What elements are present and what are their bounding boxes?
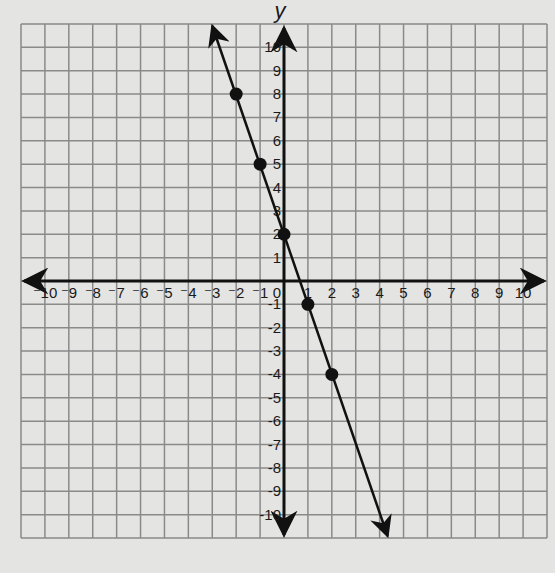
- y-tick-label: -9: [268, 482, 281, 499]
- axes: [24, 28, 544, 535]
- y-tick-label: 6: [273, 132, 281, 149]
- x-tick-label: ⁻4: [180, 284, 196, 301]
- x-tick-label: ⁻8: [85, 284, 101, 301]
- x-tick-label: 7: [447, 284, 455, 301]
- y-tick-label: -5: [268, 389, 281, 406]
- x-tick-label: ⁻9: [61, 284, 77, 301]
- y-tick-label: 4: [273, 179, 281, 196]
- x-tick-label: 6: [423, 284, 431, 301]
- data-point: [278, 228, 291, 241]
- x-tick-label: ⁻1: [252, 284, 268, 301]
- x-tick-label: 2: [328, 284, 336, 301]
- x-tick-label: ⁻6: [132, 284, 148, 301]
- data-point: [301, 298, 314, 311]
- x-tick-label: ⁻10: [33, 284, 58, 301]
- y-tick-label: -2: [268, 319, 281, 336]
- y-tick-label: -7: [268, 436, 281, 453]
- y-tick-label: -8: [268, 459, 281, 476]
- origin-label: 0: [273, 284, 281, 301]
- y-axis-label: y: [273, 0, 288, 23]
- data-point: [254, 158, 267, 171]
- x-tick-label: 8: [471, 284, 479, 301]
- x-tick-label: ⁻7: [108, 284, 124, 301]
- coordinate-plane: ⁻10⁻9⁻8⁻7⁻6⁻5⁻4⁻3⁻2⁻112345678910-10-9-8-…: [0, 0, 555, 573]
- y-tick-label: 9: [273, 62, 281, 79]
- x-tick-label: 10: [515, 284, 532, 301]
- data-point: [230, 88, 243, 101]
- x-tick-label: 9: [495, 284, 503, 301]
- x-tick-label: 5: [399, 284, 407, 301]
- y-tick-label: -3: [268, 342, 281, 359]
- x-tick-label: ⁻3: [204, 284, 220, 301]
- y-tick-label: -4: [268, 365, 281, 382]
- y-tick-label: 1: [273, 249, 281, 266]
- x-tick-label: 4: [375, 284, 383, 301]
- y-tick-label: -10: [259, 506, 281, 523]
- x-tick-label: ⁻5: [156, 284, 172, 301]
- y-tick-label: 10: [264, 38, 281, 55]
- y-tick-label: 5: [273, 155, 281, 172]
- y-tick-label: 7: [273, 108, 281, 125]
- y-tick-label: -6: [268, 412, 281, 429]
- y-tick-label: 8: [273, 85, 281, 102]
- x-tick-label: 3: [352, 284, 360, 301]
- x-tick-label: ⁻2: [228, 284, 244, 301]
- data-point: [325, 368, 338, 381]
